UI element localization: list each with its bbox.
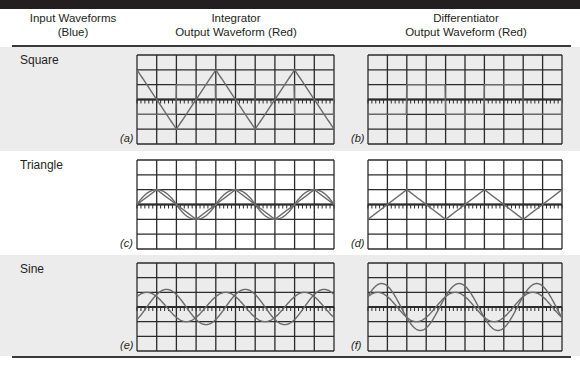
row-label-square: Square: [20, 53, 59, 67]
panel-label-b: (b): [351, 132, 364, 144]
panel-label-f: (f): [351, 339, 361, 351]
panel-label-a: (a): [120, 132, 133, 144]
column-header-differentiator: Differentiator Output Waveform (Red): [366, 11, 566, 39]
column-header-differentiator-line2: Output Waveform (Red): [366, 25, 566, 39]
column-header-input: Input Waveforms (Blue): [8, 11, 138, 39]
scope-panel-a: [137, 55, 334, 144]
scope-panel-f: [368, 263, 562, 351]
column-header-integrator-line1: Integrator: [136, 11, 336, 25]
row-label-triangle: Triangle: [20, 158, 63, 172]
column-header-differentiator-line1: Differentiator: [366, 11, 566, 25]
scope-panel-b: [368, 55, 562, 144]
footer-divider: [12, 356, 571, 358]
column-header-input-line2: (Blue): [8, 25, 138, 39]
panel-label-d: (d): [351, 237, 364, 249]
column-header-integrator-line2: Output Waveform (Red): [136, 25, 336, 39]
scope-panel-d: [368, 160, 562, 249]
column-header-input-line1: Input Waveforms: [8, 11, 138, 25]
scope-panel-c: [137, 160, 334, 249]
scope-panel-e: [137, 263, 334, 351]
panel-label-e: (e): [120, 339, 133, 351]
title-bar: [0, 0, 580, 9]
row-label-sine: Sine: [20, 262, 44, 276]
panel-label-c: (c): [120, 237, 133, 249]
column-header-integrator: Integrator Output Waveform (Red): [136, 11, 336, 39]
